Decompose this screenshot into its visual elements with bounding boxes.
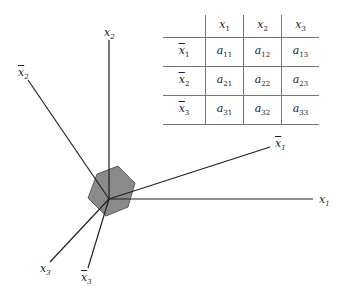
table-cell: a33 xyxy=(282,96,320,125)
row-header: x3 xyxy=(163,96,206,125)
table-cell: a31 xyxy=(206,96,244,125)
label-x3: x3 xyxy=(40,263,51,277)
row-header: x1 xyxy=(163,38,206,67)
coefficient-table: x1 x2 x3 x1 a11 a12 a13 x2 a21 a22 a23 x… xyxy=(163,15,319,125)
label-x2: x2 xyxy=(104,27,115,41)
table-header-row: x1 x2 x3 xyxy=(163,15,319,38)
table-row: x3 a31 a32 a33 xyxy=(163,96,319,125)
table-cell: a23 xyxy=(282,67,320,96)
col-header: x2 xyxy=(244,15,282,38)
table-cell: a32 xyxy=(244,96,282,125)
label-x1: x1 xyxy=(319,194,330,208)
table-row: x2 a21 a22 a23 xyxy=(163,67,319,96)
table-cell: a21 xyxy=(206,67,244,96)
label-xbar2: x2 xyxy=(18,67,29,81)
axis-x3-line xyxy=(50,199,109,262)
label-xbar1: x1 xyxy=(275,138,286,152)
table-cell: a22 xyxy=(244,67,282,96)
axis-xbar2-line xyxy=(28,80,109,199)
corner-cell xyxy=(163,15,206,38)
col-header: x3 xyxy=(282,15,320,38)
table-row: x1 a11 a12 a13 xyxy=(163,38,319,67)
table-cell: a11 xyxy=(206,38,244,67)
label-xbar3: x3 xyxy=(81,272,92,286)
table-cell: a12 xyxy=(244,38,282,67)
table-cell: a13 xyxy=(282,38,320,67)
axis-xbar1-line xyxy=(109,147,270,199)
row-header: x2 xyxy=(163,67,206,96)
hexagon-shape xyxy=(88,166,135,216)
col-header: x1 xyxy=(206,15,244,38)
